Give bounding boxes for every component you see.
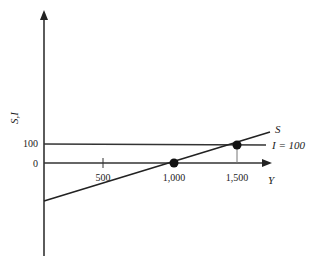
- x-axis-arrow-icon: [262, 159, 272, 167]
- x-axis-label: Y: [268, 174, 276, 186]
- equilibrium-point-1500: [233, 141, 242, 150]
- x-tick-1000: 1,000: [163, 172, 186, 183]
- chart: 100 0 500 1,000 1,500 S I = 100 Y S,I: [0, 0, 315, 270]
- y-axis-arrow-icon: [40, 10, 48, 20]
- s-line-label: S: [275, 123, 281, 135]
- y-axis-label: S,I: [8, 111, 20, 124]
- i-line-label: I = 100: [271, 139, 306, 151]
- x-tick-1500: 1,500: [226, 172, 249, 183]
- y-tick-100: 100: [23, 138, 38, 149]
- equilibrium-point-1000: [170, 159, 179, 168]
- x-tick-500: 500: [96, 172, 111, 183]
- y-tick-0: 0: [33, 158, 38, 169]
